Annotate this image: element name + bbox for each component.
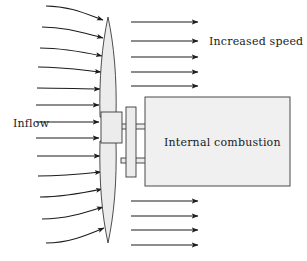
propeller-blade-lower	[100, 141, 116, 243]
inflow-streamline	[38, 172, 101, 176]
engine-label: Internal combustion	[164, 136, 281, 149]
diagram-canvas: Inflow Increased speed Internal combusti…	[0, 0, 307, 261]
inflow-streamline	[37, 88, 100, 89]
outflow-lower-group	[131, 201, 198, 245]
inflow-streamline	[46, 228, 104, 243]
flange-plate	[126, 107, 136, 177]
inflow-streamline	[40, 48, 102, 56]
propeller-hub	[101, 112, 122, 143]
outflow-upper-group	[131, 22, 198, 86]
inflow-label: Inflow	[13, 117, 50, 130]
propeller-blade-upper	[100, 17, 116, 117]
inflow-streamline	[46, 6, 103, 20]
inflow-streamline	[40, 189, 102, 197]
inflow-streamline	[42, 207, 103, 219]
inflow-streamline	[42, 27, 103, 38]
increased-speed-label: Increased speed	[209, 35, 303, 48]
inflow-streamline	[38, 67, 101, 72]
propeller-engine-diagram: Inflow Increased speed Internal combusti…	[0, 0, 307, 261]
